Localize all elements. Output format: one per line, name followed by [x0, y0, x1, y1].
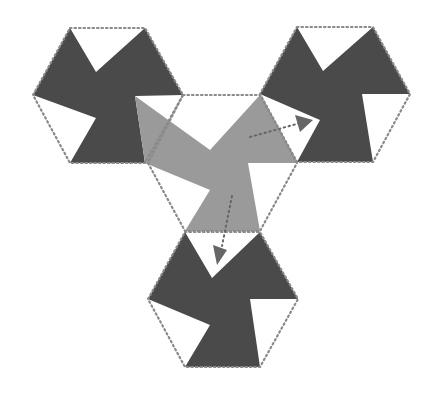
piece-center-light [135, 95, 297, 231]
arrowhead-icon [295, 115, 313, 132]
hexagon-dissection-diagram [0, 0, 444, 396]
pieces-layer [33, 27, 410, 367]
arrowhead-icon [213, 245, 227, 265]
